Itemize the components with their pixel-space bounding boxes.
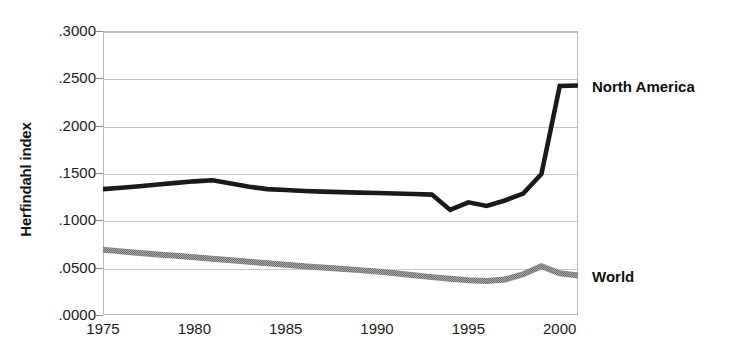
series-line-north-america: [103, 85, 578, 209]
series-line-world: [103, 250, 578, 281]
chart-figure: Herfindahl index .0000.0500.1000.1500.20…: [0, 0, 733, 359]
series-label-world: World: [592, 269, 634, 285]
series-label-north-america: North America: [592, 79, 695, 95]
series-lines: [0, 0, 733, 359]
